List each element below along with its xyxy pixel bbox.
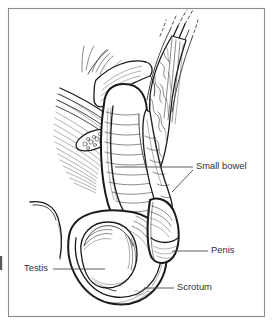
- page-edge-mark: [0, 256, 2, 270]
- label-text-scrotum: Scrotum: [177, 281, 212, 292]
- label-text-penis: Penis: [211, 244, 235, 255]
- label-text-testis: Testis: [24, 262, 48, 273]
- figure-root: Small bowel Penis Scrotum Testis: [0, 0, 278, 330]
- anatomical-illustration: Small bowel Penis Scrotum Testis: [0, 0, 278, 330]
- label-text-small-bowel: Small bowel: [196, 160, 247, 171]
- testis-body: [81, 222, 138, 288]
